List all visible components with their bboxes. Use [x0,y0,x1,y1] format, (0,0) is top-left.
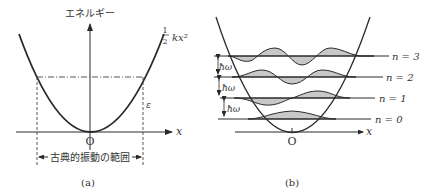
svg-text:kx²: kx² [172,32,188,43]
potential-label: 1 2 kx² [162,26,188,46]
energy-axis-label: エネルギー [65,8,115,19]
level-label-n2: n = 2 [386,72,414,83]
svg-text:ħω: ħω [219,62,233,72]
panel-b: x O ħω ħω ħω n = 3 n = 2 n = 1 n = 0 (b) [214,17,420,188]
spacing-arrow-2-1: ħω [219,80,236,95]
classical-range-label: 古典的振動の範囲 [50,151,130,163]
level-label-n1: n = 1 [379,93,407,104]
harmonic-oscillator-figure: エネルギー x O ε 1 2 kx² 古典的振動の範囲 (a) [0,0,428,195]
origin-label: O [85,135,94,148]
x-axis-label: x [176,125,183,138]
spacing-arrow-1-0: ħω [224,101,241,116]
panel-a: エネルギー x O ε 1 2 kx² 古典的振動の範囲 (a) [16,8,188,188]
level-label-n3: n = 3 [392,51,420,62]
origin-label-b: O [287,135,296,148]
energy-epsilon-label: ε [146,100,151,110]
caption-b: (b) [285,177,299,188]
classical-range-bracket: 古典的振動の範囲 [39,150,141,164]
spacing-arrow-3-2: ħω [218,59,233,74]
potential-curve [19,34,164,132]
x-axis-label-b: x [366,125,373,138]
level-label-n0: n = 0 [375,114,403,125]
svg-text:2: 2 [162,37,167,46]
svg-text:ħω: ħω [222,83,236,93]
svg-text:1: 1 [162,26,167,35]
svg-text:ħω: ħω [227,104,241,114]
caption-a: (a) [81,177,95,188]
